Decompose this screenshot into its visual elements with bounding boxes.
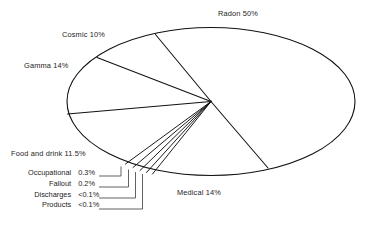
callout-name-products: Products [28, 201, 78, 212]
callout-pct-fallout: 0.2% [78, 180, 99, 191]
slice-label-radon: Radon 50% [218, 10, 258, 17]
callout-row-fallout: Fallout 0.2% [28, 180, 99, 191]
leader-line-products [99, 174, 143, 209]
slice-label-cosmic: Cosmic 10% [62, 31, 105, 38]
slice-label-food-and-drink: Food and drink 11.5% [11, 150, 86, 157]
slice-label-medical: Medical 14% [177, 189, 221, 196]
callout-row-products: Products <0.1% [28, 201, 99, 212]
slice-label-gamma: Gamma 14% [24, 62, 68, 69]
pie-chart-figure: Radon 50% Cosmic 10% Gamma 14% Food and … [0, 0, 372, 229]
callout-label-table: Occupational 0.3% Fallout 0.2% Discharge… [28, 169, 99, 212]
leader-line-occupational [99, 167, 121, 177]
leader-line-fallout [99, 170, 129, 188]
callout-name-fallout: Fallout [28, 180, 78, 191]
callout-pct-products: <0.1% [78, 201, 99, 212]
